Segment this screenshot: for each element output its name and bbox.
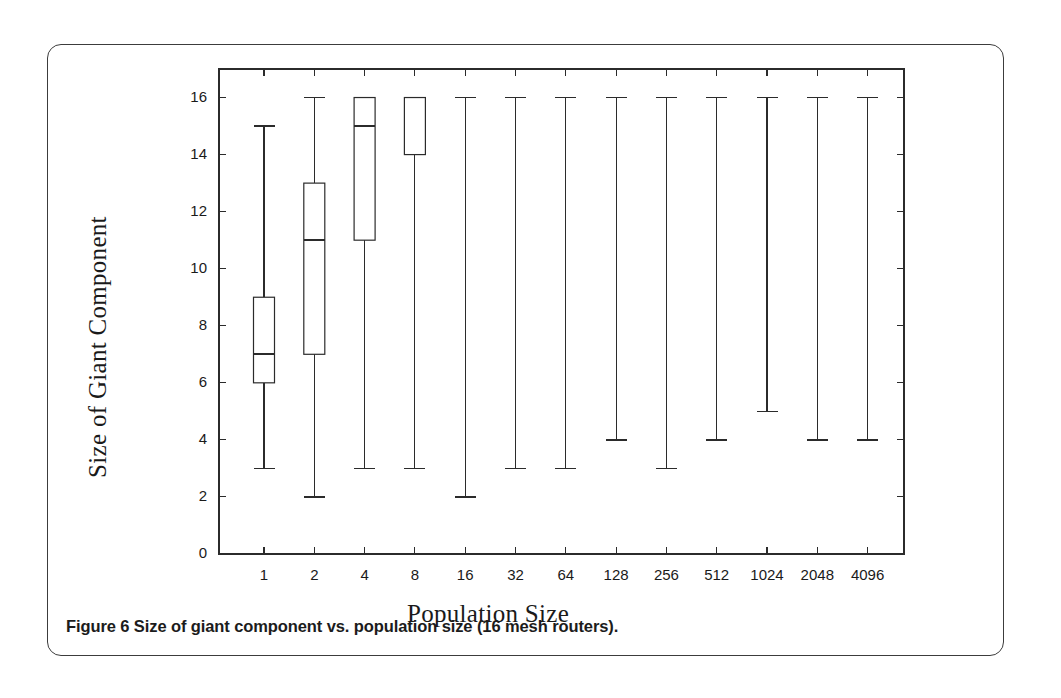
box-rect [254,297,275,383]
y-tick-label: 10 [167,259,207,276]
y-tick-label: 6 [167,373,207,390]
y-tick-label: 0 [167,544,207,561]
y-axis-title: Size of Giant Component [84,147,112,547]
y-tick-label: 14 [167,145,207,162]
box-plot-item [656,98,677,469]
box-plot-item [555,98,576,469]
y-tick-label: 2 [167,487,207,504]
box-plot-item [505,98,526,469]
box-plot-item [706,98,727,440]
box-plot-item [254,126,275,468]
figure-card: 0246810121416 12481632641282565121024204… [47,44,1004,656]
box-plot-item [304,98,325,497]
box-plot-item [757,98,778,412]
box-plot-item [455,98,476,497]
box-series [254,98,879,497]
box-rect [404,98,425,155]
box-plot-item [354,98,375,469]
y-tick-label: 16 [167,88,207,105]
y-tick-label: 4 [167,430,207,447]
figure-caption: Figure 6 Size of giant component vs. pop… [66,617,986,636]
x-tick-label: 4096 [838,566,898,583]
box-plot-item [807,98,828,440]
box-plot-item [857,98,878,440]
box-rect [304,183,325,354]
y-tick-label: 12 [167,202,207,219]
boxplot-chart: 0246810121416 12481632641282565121024204… [48,45,1005,657]
box-rect [354,98,375,241]
box-plot-item [606,98,627,440]
box-plot-item [404,98,425,469]
y-tick-label: 8 [167,316,207,333]
